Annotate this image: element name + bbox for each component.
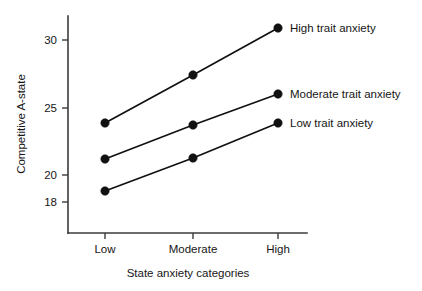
line-chart-canvas: 30 25 20 18 Low Moderate High Competitiv…	[0, 0, 422, 291]
series-label-low-trait-anxiety: Low trait anxiety	[290, 117, 373, 129]
y-tick-label-18: 18	[44, 196, 57, 208]
series-high-point-high	[274, 24, 282, 32]
series-moderate-point-high	[274, 90, 282, 98]
chart-figure: 30 25 20 18 Low Moderate High Competitiv…	[0, 0, 422, 291]
series-label-moderate-trait-anxiety: Moderate trait anxiety	[290, 88, 401, 100]
y-tick-label-30: 30	[44, 34, 57, 46]
series-low-point-high	[274, 119, 282, 127]
x-tick-label-moderate: Moderate	[169, 243, 218, 255]
x-tick-label-high: High	[266, 243, 290, 255]
x-axis-title: State anxiety categories	[127, 267, 250, 279]
series-low-point-low	[101, 187, 109, 195]
series-low-point-moderate	[189, 154, 197, 162]
series-label-high-trait-anxiety: High trait anxiety	[290, 22, 376, 34]
series-high-point-low	[101, 119, 109, 127]
y-axis-title: Competitive A-state	[15, 74, 27, 174]
y-tick-label-25: 25	[44, 102, 57, 114]
series-moderate-point-moderate	[189, 121, 197, 129]
series-high-point-moderate	[189, 71, 197, 79]
y-tick-label-20: 20	[44, 169, 57, 181]
series-moderate-point-low	[101, 155, 109, 163]
x-tick-label-low: Low	[94, 243, 116, 255]
